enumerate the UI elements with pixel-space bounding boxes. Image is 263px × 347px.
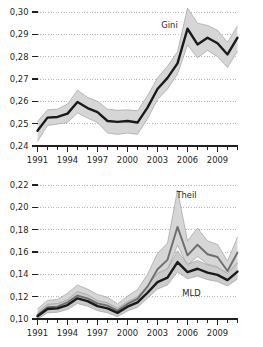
y-tick-label: 0,29 <box>10 29 29 39</box>
chart-panel-gini: 0,240,250,260,270,280,290,30 19911994199… <box>0 0 263 174</box>
theil-mld-y-tick-labels: 0,100,120,140,160,180,200,22 <box>10 180 29 324</box>
series-annotation-gini: Gini <box>161 20 177 30</box>
y-tick-label: 0,16 <box>10 247 29 257</box>
y-tick-label: 0,30 <box>10 7 29 17</box>
chart-panel-theil-mld: 0,100,120,140,160,180,200,22 19911994199… <box>0 173 263 347</box>
gini-chart-svg: 0,240,250,260,270,280,290,30 19911994199… <box>0 0 263 174</box>
y-tick-label: 0,26 <box>10 96 29 106</box>
x-tick-label: 2009 <box>207 155 228 165</box>
x-tick-label: 2003 <box>147 328 168 338</box>
x-tick-label: 2000 <box>117 328 138 338</box>
y-tick-label: 0,24 <box>10 141 29 151</box>
y-tick-label: 0,27 <box>10 74 29 84</box>
x-tick-label: 1994 <box>57 155 78 165</box>
x-tick-label: 2003 <box>147 155 168 165</box>
y-tick-label: 0,28 <box>10 52 29 62</box>
gini-y-tick-labels: 0,240,250,260,270,280,290,30 <box>10 7 29 151</box>
x-tick-label: 2006 <box>177 155 198 165</box>
figure-inequality-indices: 0,240,250,260,270,280,290,30 19911994199… <box>0 0 263 347</box>
y-tick-label: 0,20 <box>10 202 29 212</box>
y-tick-label: 0,14 <box>10 269 29 279</box>
y-tick-label: 0,22 <box>10 180 29 190</box>
x-tick-label: 1991 <box>27 155 48 165</box>
gini-series-annotations: Gini <box>161 20 177 30</box>
series-annotation-mld: MLD <box>182 288 200 298</box>
gini-x-tick-labels: 1991199419972000200320062009 <box>27 155 228 165</box>
x-tick-label: 1997 <box>87 328 108 338</box>
x-tick-label: 2000 <box>117 155 138 165</box>
theil-mld-chart-svg: 0,100,120,140,160,180,200,22 19911994199… <box>0 173 263 347</box>
y-tick-label: 0,10 <box>10 314 29 324</box>
x-tick-label: 1997 <box>87 155 108 165</box>
series-annotation-theil: Theil <box>175 190 196 200</box>
theil-mld-series-lines <box>38 227 238 316</box>
y-tick-label: 0,12 <box>10 292 29 302</box>
x-tick-label: 1994 <box>57 328 78 338</box>
x-tick-label: 2009 <box>207 328 228 338</box>
x-tick-label: 2006 <box>177 328 198 338</box>
y-tick-label: 0,25 <box>10 119 29 129</box>
x-tick-label: 1991 <box>27 328 48 338</box>
y-tick-label: 0,18 <box>10 225 29 235</box>
theil-mld-x-tick-labels: 1991199419972000200320062009 <box>27 328 228 338</box>
